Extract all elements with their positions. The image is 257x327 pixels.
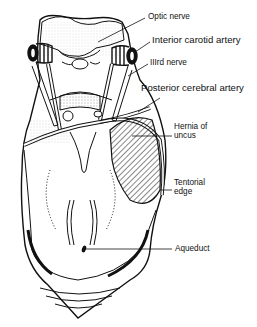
label-hernia-line2: uncus xyxy=(174,131,207,140)
anatomy-diagram: Optic nerve Interior carotid artery IIIr… xyxy=(0,0,257,327)
midbrain xyxy=(30,92,112,173)
label-tentorial-edge: Tentorial edge xyxy=(174,178,205,197)
label-third-nerve: IIIrd nerve xyxy=(150,59,187,67)
label-interior-carotid-artery: Interior carotid artery xyxy=(152,35,241,45)
uncus-hernia xyxy=(110,118,160,204)
label-tentorial-line2: edge xyxy=(174,187,205,196)
label-optic-nerve: Optic nerve xyxy=(148,13,190,21)
carotid-right xyxy=(112,45,137,65)
carotid-left xyxy=(28,43,52,63)
label-aqueduct: Aqueduct xyxy=(175,245,210,253)
label-hernia-of-uncus: Hernia of uncus xyxy=(174,122,207,141)
brain-base-illustration xyxy=(0,0,257,327)
label-tentorial-line1: Tentorial xyxy=(174,178,205,187)
label-hernia-line1: Hernia of xyxy=(174,122,207,131)
label-posterior-cerebral-artery: Posterior cerebral artery xyxy=(141,83,244,93)
